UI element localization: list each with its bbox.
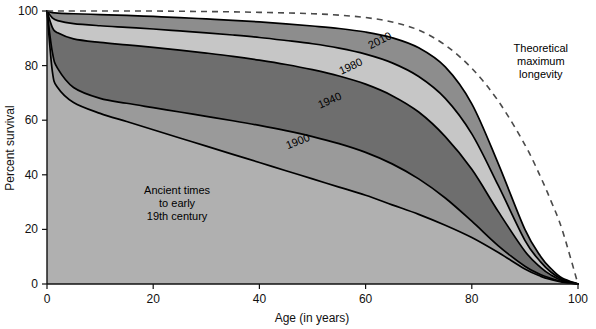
survival-chart-figure: 020406080100 020406080100 20101980194019… — [0, 0, 596, 329]
survival-band-layer — [47, 11, 578, 284]
annotation-line: to early — [159, 197, 196, 209]
annotation-line: Theoretical — [514, 42, 568, 54]
annotation-line: maximum — [517, 55, 565, 67]
x-tick-label-100: 100 — [568, 292, 588, 306]
y-tick-label-80: 80 — [25, 59, 39, 73]
y-tick-label-20: 20 — [25, 222, 39, 236]
y-tick-label-60: 60 — [25, 113, 39, 127]
annotation-line: 19th century — [147, 210, 208, 222]
x-tick-label-80: 80 — [465, 292, 479, 306]
y-tick-label-40: 40 — [25, 168, 39, 182]
x-tick-label-20: 20 — [147, 292, 161, 306]
x-tick-label-60: 60 — [359, 292, 373, 306]
x-axis-tick-labels: 020406080100 — [44, 292, 589, 306]
annotation-line: longevity — [519, 68, 563, 80]
y-axis-title: Percent survival — [3, 105, 17, 190]
y-tick-label-100: 100 — [18, 4, 38, 18]
y-tick-label-0: 0 — [31, 277, 38, 291]
annotation-line: Ancient times — [144, 184, 211, 196]
x-tick-label-40: 40 — [253, 292, 267, 306]
x-axis-title: Age (in years) — [275, 311, 350, 325]
survival-chart-canvas: 020406080100 020406080100 20101980194019… — [0, 0, 596, 329]
y-axis-tick-labels: 020406080100 — [18, 4, 38, 291]
x-tick-label-0: 0 — [44, 292, 51, 306]
annotation-theoretical-maximum-longevity: Theoreticalmaximumlongevity — [514, 42, 568, 80]
